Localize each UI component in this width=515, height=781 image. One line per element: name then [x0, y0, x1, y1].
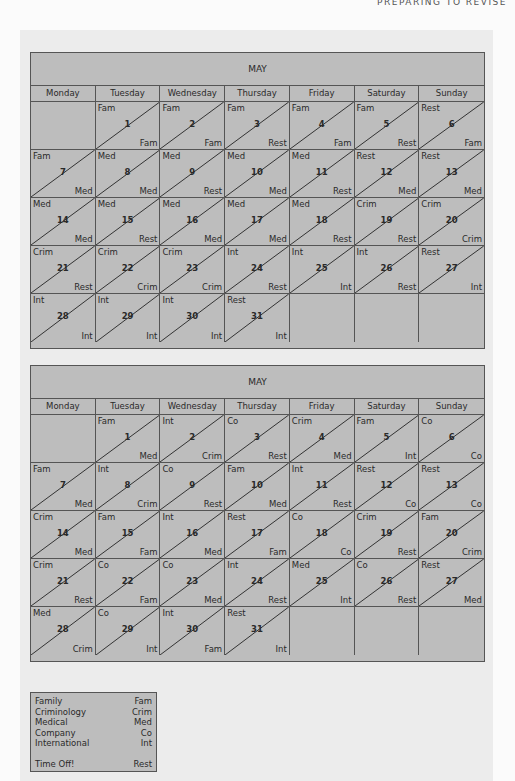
day-cell: Int29Int	[96, 294, 161, 342]
second-half-subject: Rest	[268, 595, 287, 605]
day-cell: Int25Int	[290, 246, 355, 294]
day-cell: Fam5Int	[355, 415, 420, 463]
date-number: 25	[290, 263, 354, 273]
first-half-subject: Crim	[162, 247, 182, 257]
first-half-subject: Crim	[98, 247, 118, 257]
first-half-subject: Int	[357, 247, 368, 257]
second-half-subject: Fam	[140, 595, 158, 605]
first-half-subject: Int	[98, 295, 109, 305]
second-half-subject: Med	[75, 186, 93, 196]
day-cell: Crim21Rest	[31, 246, 96, 294]
day-header: Monday	[31, 86, 96, 102]
first-half-subject: Int	[227, 560, 238, 570]
second-half-subject: Med	[139, 186, 157, 196]
date-number: 27	[419, 576, 484, 586]
legend-spacer	[35, 749, 152, 759]
first-half-subject: Med	[227, 151, 245, 161]
date-number: 31	[225, 311, 289, 321]
date-number: 16	[160, 215, 224, 225]
running-head: PREPARING TO REVISE	[377, 0, 507, 7]
second-half-subject: Int	[340, 595, 351, 605]
date-number: 2	[160, 119, 224, 129]
first-half-subject: Crim	[33, 247, 53, 257]
second-half-subject: Int	[276, 644, 287, 654]
first-half-subject: Co	[162, 464, 173, 474]
date-number: 25	[290, 576, 354, 586]
second-half-subject: Rest	[268, 138, 287, 148]
first-half-subject: Int	[98, 464, 109, 474]
date-number: 15	[96, 528, 160, 538]
day-cell: Fam7Med	[31, 150, 96, 198]
first-half-subject: Rest	[227, 512, 246, 522]
date-number: 9	[160, 480, 224, 490]
day-cell: Rest12Co	[355, 463, 420, 511]
second-half-subject: Crim	[462, 234, 482, 244]
date-number: 6	[419, 432, 484, 442]
first-half-subject: Crim	[33, 560, 53, 570]
second-half-subject: Fam	[140, 547, 158, 557]
second-half-subject: Med	[204, 547, 222, 557]
first-half-subject: Crim	[357, 199, 377, 209]
day-cell: Fam1Fam	[96, 102, 161, 150]
legend-abbr: Int	[141, 738, 152, 749]
date-number: 3	[225, 119, 289, 129]
day-header: Monday	[31, 399, 96, 415]
first-half-subject: Int	[162, 416, 173, 426]
day-cell: Rest6Fam	[419, 102, 484, 150]
day-cell: Rest27Med	[419, 559, 484, 607]
date-number: 4	[290, 432, 354, 442]
date-number: 21	[31, 263, 95, 273]
first-half-subject: Crim	[421, 199, 441, 209]
date-number: 15	[96, 215, 160, 225]
day-cell: Fam15Fam	[96, 511, 161, 559]
first-half-subject: Fam	[98, 103, 116, 113]
first-half-subject: Fam	[227, 464, 245, 474]
date-number: 29	[96, 624, 160, 634]
first-half-subject: Rest	[421, 103, 440, 113]
second-half-subject: Rest	[333, 186, 352, 196]
day-cell: Med14Med	[31, 198, 96, 246]
second-half-subject: Int	[81, 331, 92, 341]
first-half-subject: Co	[227, 416, 238, 426]
day-cell: Crim14Med	[31, 511, 96, 559]
date-number: 5	[355, 432, 419, 442]
day-cell: Rest31Int	[225, 607, 290, 655]
day-cell: Med16Med	[160, 198, 225, 246]
date-number: 14	[31, 528, 95, 538]
second-half-subject: Fam	[334, 138, 352, 148]
date-number: 13	[419, 167, 484, 177]
date-number: 4	[290, 119, 354, 129]
date-number: 10	[225, 480, 289, 490]
date-number: 6	[419, 119, 484, 129]
empty-day-cell	[355, 294, 420, 342]
day-cell: Med8Med	[96, 150, 161, 198]
second-half-subject: Crim	[137, 282, 157, 292]
legend-label: Medical	[35, 717, 68, 728]
calendar-1: MAY MondayTuesdayWednesdayThursdayFriday…	[30, 52, 485, 349]
second-half-subject: Rest	[398, 234, 417, 244]
first-half-subject: Int	[162, 512, 173, 522]
first-half-subject: Fam	[357, 103, 375, 113]
day-header-row: MondayTuesdayWednesdayThursdayFridaySatu…	[31, 399, 484, 415]
second-half-subject: Co	[471, 499, 482, 509]
legend-row: InternationalInt	[35, 738, 152, 749]
day-cell: Int11Rest	[290, 463, 355, 511]
first-half-subject: Fam	[98, 416, 116, 426]
day-cell: Fam20Crim	[419, 511, 484, 559]
legend-row: CompanyCo	[35, 728, 152, 739]
legend-label: Company	[35, 728, 75, 739]
day-cell: Int30Int	[160, 294, 225, 342]
date-number: 5	[355, 119, 419, 129]
second-half-subject: Fam	[205, 138, 223, 148]
second-half-subject: Int	[405, 451, 416, 461]
second-half-subject: Med	[75, 234, 93, 244]
day-header: Tuesday	[96, 86, 161, 102]
first-half-subject: Med	[162, 199, 180, 209]
date-number: 26	[355, 263, 419, 273]
day-header: Wednesday	[160, 86, 225, 102]
day-cell: Int24Rest	[225, 246, 290, 294]
second-half-subject: Med	[334, 451, 352, 461]
day-cell: Crim19Rest	[355, 511, 420, 559]
date-number: 8	[96, 167, 160, 177]
day-cell: Co26Rest	[355, 559, 420, 607]
